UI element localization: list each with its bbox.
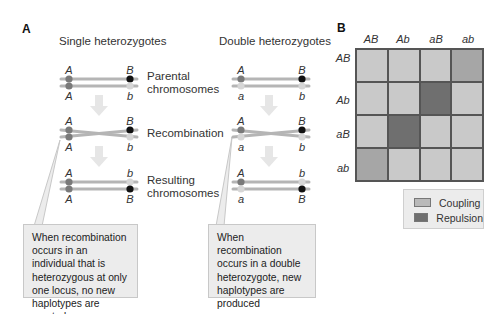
allele-label: A [235, 115, 247, 127]
grid-cell-Ab-AB [356, 82, 388, 115]
grid-cell-Ab-aB-repulsion [420, 82, 452, 115]
grid-cell-aB-AB [356, 115, 388, 148]
allele-label: b [124, 167, 136, 179]
stage-label-resulting: Resulting chromosomes [147, 174, 219, 200]
grid-cell-aB-Ab-repulsion [388, 115, 420, 148]
grid-cell-aB-aB [420, 115, 452, 148]
allele-label: A [63, 167, 75, 179]
allele-label: b [296, 90, 308, 102]
grid-cell-ab-AB-coupling [356, 148, 388, 181]
allele-label: a [235, 90, 247, 102]
allele-label: b [296, 167, 308, 179]
allele-label: A [63, 193, 75, 205]
grid-cell-ab-ab [451, 148, 483, 181]
allele-label: a [235, 193, 247, 205]
haplotype-grid [355, 48, 484, 182]
column-header: Ab [387, 33, 419, 45]
grid-cell-ab-Ab [388, 148, 420, 181]
allele-label: B [124, 193, 136, 205]
callout-pointer-single [34, 140, 60, 226]
grid-cell-Ab-ab [451, 82, 483, 115]
stage-label-recombination: Recombination [147, 127, 224, 140]
grid-cell-ab-aB [420, 148, 452, 181]
allele-label: B [296, 115, 308, 127]
allele-label: a [235, 141, 247, 153]
allele-label: A [235, 167, 247, 179]
legend: Coupling Repulsion [403, 189, 484, 229]
grid-cell-AB-Ab [388, 49, 420, 82]
callout-double-heterozygote: When recombination occurs in a double he… [208, 224, 316, 298]
allele-label: A [63, 90, 75, 102]
legend-item-coupling: Coupling [414, 195, 483, 210]
allele-label: B [296, 64, 308, 76]
allele-label: A [235, 64, 247, 76]
legend-item-repulsion: Repulsion [414, 210, 483, 225]
stage-label-parental: Parental chromosomes [147, 70, 219, 96]
column-header: ab [452, 33, 484, 45]
grid-cell-Ab-Ab [388, 82, 420, 115]
allele-label: A [63, 64, 75, 76]
callout-single-heterozygote: When recombination occurs in an individu… [23, 224, 138, 298]
row-header: Ab [333, 94, 353, 106]
grid-cell-AB-AB [356, 49, 388, 82]
panel-b-letter: B [337, 21, 346, 35]
allele-label: B [296, 193, 308, 205]
grid-cell-AB-ab-coupling [451, 49, 483, 82]
allele-label: b [296, 141, 308, 153]
row-header: aB [333, 128, 353, 140]
allele-label: A [63, 115, 75, 127]
grid-cell-aB-ab [451, 115, 483, 148]
coupling-swatch-icon [414, 198, 431, 207]
row-header: ab [333, 162, 353, 174]
repulsion-swatch-icon [414, 213, 428, 222]
grid-cell-AB-aB [420, 49, 452, 82]
column-header: aB [420, 33, 452, 45]
allele-label: B [124, 115, 136, 127]
allele-label: B [124, 64, 136, 76]
allele-label: b [124, 141, 136, 153]
column-header: AB [355, 33, 387, 45]
allele-label: b [124, 90, 136, 102]
allele-label: A [63, 141, 75, 153]
row-header: AB [333, 52, 353, 64]
